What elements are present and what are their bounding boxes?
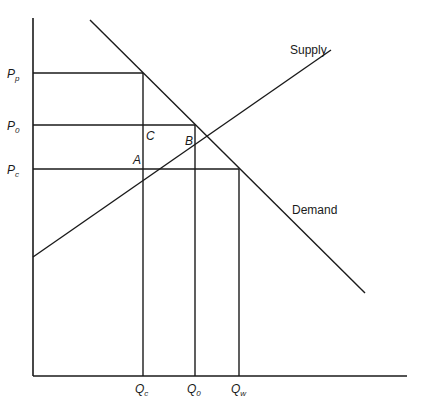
quantity-label-qc: Qc xyxy=(135,382,148,398)
demand-curve xyxy=(90,20,365,293)
supply-label: Supply xyxy=(290,43,327,57)
quantity-label-q0: Q0 xyxy=(187,382,201,398)
region-label-a: A xyxy=(132,153,141,167)
supply-demand-diagram: Pp P0 Pc Qc Q0 Qw C B A Supply Demand xyxy=(0,0,422,406)
demand-label: Demand xyxy=(292,203,337,217)
region-label-b: B xyxy=(185,134,193,148)
price-label-p0: P0 xyxy=(7,119,20,135)
supply-curve xyxy=(33,50,331,257)
price-label-pc: Pc xyxy=(7,163,19,179)
price-label-pp: Pp xyxy=(7,67,20,83)
region-label-c: C xyxy=(146,129,155,143)
quantity-label-qw: Qw xyxy=(231,382,247,398)
